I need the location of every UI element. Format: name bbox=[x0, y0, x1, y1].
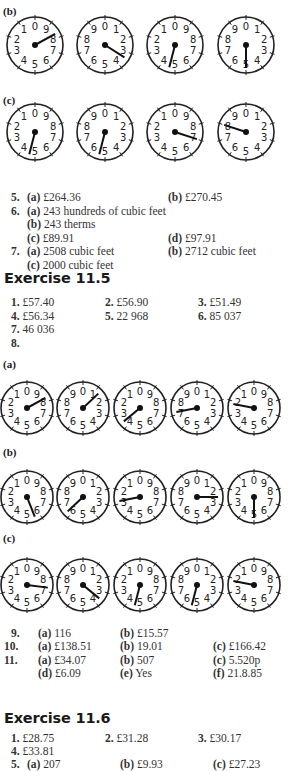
svg-text:8: 8 bbox=[50, 121, 56, 132]
meter-dial: 0987654321 bbox=[144, 14, 206, 76]
svg-text:8: 8 bbox=[267, 486, 273, 497]
svg-text:1: 1 bbox=[21, 24, 27, 35]
svg-text:9: 9 bbox=[43, 111, 49, 122]
svg-text:7: 7 bbox=[40, 497, 46, 508]
svg-text:0: 0 bbox=[102, 21, 108, 32]
svg-text:2: 2 bbox=[210, 486, 216, 497]
svg-text:7: 7 bbox=[267, 408, 273, 419]
svg-text:5: 5 bbox=[102, 146, 108, 157]
svg-text:6: 6 bbox=[147, 505, 153, 516]
svg-text:8: 8 bbox=[267, 574, 273, 585]
answer-item: 1. £28.75 bbox=[11, 732, 54, 744]
svg-text:5: 5 bbox=[24, 509, 30, 520]
svg-text:4: 4 bbox=[161, 55, 167, 66]
svg-text:4: 4 bbox=[161, 142, 167, 153]
answer-item: 2. £56.90 bbox=[105, 296, 148, 308]
svg-text:9: 9 bbox=[183, 111, 189, 122]
svg-text:0: 0 bbox=[24, 563, 30, 574]
answer-item: (b) 507 bbox=[120, 654, 154, 666]
svg-text:7: 7 bbox=[190, 45, 196, 56]
svg-text:0: 0 bbox=[172, 21, 178, 32]
svg-text:5: 5 bbox=[80, 420, 86, 431]
answer-item: (b) 19.01 bbox=[120, 640, 163, 652]
answer-item: (c) 5.520p bbox=[213, 654, 260, 666]
svg-text:6: 6 bbox=[70, 593, 76, 604]
svg-text:2: 2 bbox=[154, 34, 160, 45]
svg-text:9: 9 bbox=[70, 478, 76, 489]
svg-text:7: 7 bbox=[225, 45, 231, 56]
svg-text:0: 0 bbox=[102, 108, 108, 119]
answer-item: 8. bbox=[11, 337, 20, 349]
svg-text:6: 6 bbox=[147, 593, 153, 604]
svg-text:6: 6 bbox=[34, 416, 40, 427]
meter-dial: 0123456789 bbox=[168, 556, 226, 614]
meter-dial: 0987654321 bbox=[225, 379, 283, 437]
svg-text:5: 5 bbox=[194, 597, 200, 608]
meter-dial: 0987654321 bbox=[111, 556, 169, 614]
svg-text:2: 2 bbox=[210, 574, 216, 585]
svg-text:3: 3 bbox=[8, 408, 14, 419]
svg-text:6: 6 bbox=[261, 416, 267, 427]
svg-text:0: 0 bbox=[137, 563, 143, 574]
svg-text:4: 4 bbox=[127, 505, 133, 516]
svg-text:6: 6 bbox=[184, 593, 190, 604]
svg-text:7: 7 bbox=[84, 132, 90, 143]
answer-item: (d) £6.09 bbox=[38, 667, 81, 679]
meter-dial: 0987654321 bbox=[111, 468, 169, 526]
svg-text:3: 3 bbox=[121, 408, 127, 419]
meter-dial: 0123456789 bbox=[74, 101, 136, 163]
answer-item: (b) 2712 cubic feet bbox=[168, 245, 256, 257]
meter-dial: 0987654321 bbox=[0, 468, 56, 526]
svg-text:2: 2 bbox=[14, 121, 20, 132]
meter-dial: 0987654321 bbox=[225, 468, 283, 526]
svg-text:3: 3 bbox=[121, 497, 127, 508]
svg-text:6: 6 bbox=[91, 142, 97, 153]
svg-text:5: 5 bbox=[24, 420, 30, 431]
svg-text:3: 3 bbox=[210, 497, 216, 508]
svg-text:3: 3 bbox=[210, 408, 216, 419]
svg-text:2: 2 bbox=[154, 121, 160, 132]
svg-text:2: 2 bbox=[14, 34, 20, 45]
svg-text:8: 8 bbox=[153, 486, 159, 497]
svg-text:5: 5 bbox=[24, 597, 30, 608]
meter-dial: 0987654321 bbox=[144, 101, 206, 163]
answer-item: (a) 2508 cubic feet bbox=[27, 245, 114, 257]
answer-item: 2. £31.28 bbox=[105, 732, 148, 744]
svg-text:4: 4 bbox=[21, 55, 27, 66]
meter-dial: 0987654321 bbox=[4, 101, 66, 163]
svg-text:5: 5 bbox=[251, 420, 257, 431]
svg-text:3: 3 bbox=[96, 408, 102, 419]
meter-dial: 0987654321 bbox=[0, 556, 56, 614]
svg-text:3: 3 bbox=[96, 585, 102, 596]
meter-dial: 0123456789 bbox=[74, 14, 136, 76]
svg-text:9: 9 bbox=[232, 24, 238, 35]
svg-text:6: 6 bbox=[261, 593, 267, 604]
svg-text:9: 9 bbox=[91, 24, 97, 35]
svg-text:7: 7 bbox=[267, 497, 273, 508]
svg-text:4: 4 bbox=[241, 593, 247, 604]
svg-text:3: 3 bbox=[14, 45, 20, 56]
svg-text:7: 7 bbox=[225, 132, 231, 143]
question-number: 9. bbox=[11, 627, 20, 639]
answer-item: (a) £34.07 bbox=[38, 654, 86, 666]
svg-text:7: 7 bbox=[153, 408, 159, 419]
svg-text:0: 0 bbox=[80, 563, 86, 574]
svg-text:8: 8 bbox=[84, 34, 90, 45]
svg-text:6: 6 bbox=[184, 505, 190, 516]
svg-text:5: 5 bbox=[137, 420, 143, 431]
svg-text:4: 4 bbox=[204, 505, 210, 516]
svg-text:8: 8 bbox=[40, 486, 46, 497]
meter-dial: 0123456789 bbox=[54, 379, 112, 437]
svg-text:3: 3 bbox=[121, 585, 127, 596]
svg-text:6: 6 bbox=[91, 55, 97, 66]
answer-item: 4. £33.81 bbox=[11, 745, 54, 757]
svg-text:8: 8 bbox=[153, 574, 159, 585]
svg-text:9: 9 bbox=[43, 24, 49, 35]
answer-item: 3. £30.17 bbox=[198, 732, 241, 744]
svg-text:0: 0 bbox=[172, 108, 178, 119]
svg-text:6: 6 bbox=[183, 142, 189, 153]
svg-text:1: 1 bbox=[113, 24, 119, 35]
svg-text:4: 4 bbox=[14, 416, 20, 427]
answer-item: (c) £89.91 bbox=[27, 232, 74, 244]
svg-text:4: 4 bbox=[204, 416, 210, 427]
